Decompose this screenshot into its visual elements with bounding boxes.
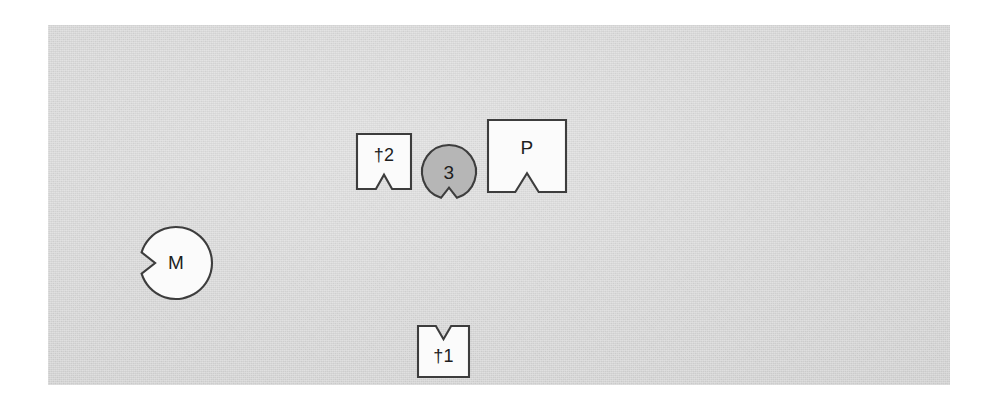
shape-m-label: M (168, 252, 184, 273)
shape-p[interactable]: P (488, 120, 566, 192)
shapes-svg: †2 3 P M (48, 25, 950, 385)
shape-dagger2[interactable]: †2 (357, 134, 411, 189)
shape-dagger1[interactable]: †1 (418, 326, 469, 377)
shape-dagger2-label: †2 (374, 145, 394, 165)
shape-three[interactable]: 3 (422, 145, 476, 198)
shape-layer: †2 3 P M (48, 25, 950, 385)
diagram-canvas: †2 3 P M (48, 25, 950, 385)
shape-m[interactable]: M (142, 227, 212, 299)
shape-dagger1-label: †1 (433, 346, 453, 366)
figure-root: †2 3 P M (0, 0, 992, 411)
shape-p-label: P (521, 137, 534, 158)
shape-three-label: 3 (444, 162, 455, 183)
